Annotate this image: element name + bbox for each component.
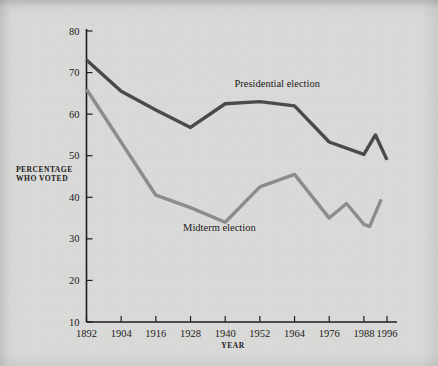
x-tick-label: 1892 — [76, 328, 97, 339]
x-tick-label: 1964 — [284, 328, 306, 339]
y-tick-label: 30 — [69, 233, 80, 244]
x-tick-label: 1996 — [377, 328, 398, 339]
voter-turnout-line-chart: 1020304050607080 18921904191619281940195… — [0, 0, 438, 366]
y-axis-title-line2: WHO VOTED — [16, 174, 68, 183]
y-tick-label: 20 — [69, 275, 80, 286]
series-line-presidential-election — [87, 60, 388, 160]
series-label-presidential-election: Presidential election — [234, 78, 320, 89]
series-line-midterm-election — [87, 89, 382, 226]
x-axis-title: YEAR — [221, 341, 244, 350]
chart-figure: 1020304050607080 18921904191619281940195… — [0, 0, 438, 366]
x-tick-label: 1940 — [215, 328, 236, 339]
x-tick-label: 1976 — [319, 328, 340, 339]
y-tick-label: 60 — [69, 109, 80, 120]
x-tick-label: 1988 — [353, 328, 374, 339]
y-axis-title-line1: PERCENTAGE — [16, 165, 73, 174]
x-tick-label: 1928 — [180, 328, 201, 339]
x-axis-tick-labels: 1892190419161928194019521964197619881996 — [76, 328, 398, 339]
y-axis-ticks — [87, 31, 93, 322]
series-label-midterm-election: Midterm election — [183, 222, 256, 233]
x-tick-label: 1916 — [145, 328, 166, 339]
y-tick-label: 40 — [69, 192, 80, 203]
x-axis-ticks — [87, 316, 388, 322]
x-tick-label: 1904 — [111, 328, 133, 339]
y-axis-tick-labels: 1020304050607080 — [69, 26, 80, 328]
x-tick-label: 1952 — [249, 328, 270, 339]
y-tick-label: 80 — [69, 26, 80, 37]
y-tick-label: 10 — [69, 317, 80, 328]
y-tick-label: 70 — [69, 67, 80, 78]
y-tick-label: 50 — [69, 150, 80, 161]
